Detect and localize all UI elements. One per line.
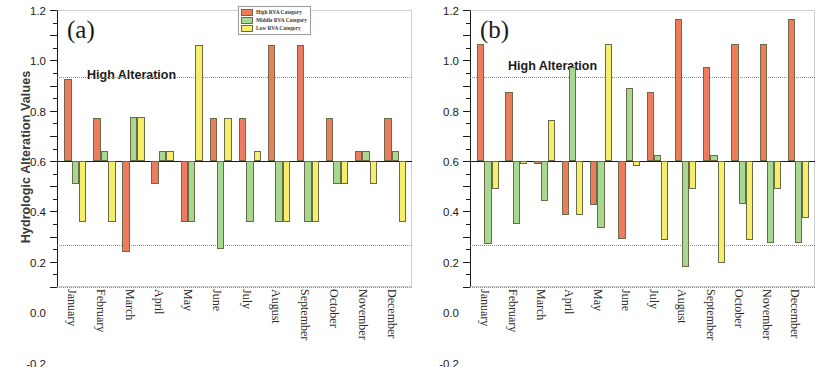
bar xyxy=(72,161,79,184)
bar-group xyxy=(615,10,643,287)
bar-group xyxy=(236,10,265,287)
bar xyxy=(477,44,484,161)
bar xyxy=(710,155,717,161)
y-tick: 0.2 xyxy=(50,136,57,137)
bar xyxy=(484,161,491,244)
y-tick: -1.0 xyxy=(50,287,57,288)
y-tick-label: 1.2 xyxy=(30,5,46,17)
bar-group xyxy=(672,10,700,287)
x-axis-label: May xyxy=(180,289,195,311)
y-tick: -0.2 xyxy=(50,186,57,187)
bar xyxy=(590,161,597,205)
bar-group xyxy=(728,10,756,287)
bar xyxy=(297,45,304,161)
bar xyxy=(795,161,802,243)
bar xyxy=(188,161,195,221)
y-tick-label: 0.4 xyxy=(443,206,459,218)
x-axis-label: July xyxy=(239,289,254,309)
bar xyxy=(492,161,499,189)
bar xyxy=(151,161,158,184)
bar xyxy=(122,161,129,252)
bar xyxy=(576,161,583,215)
bar xyxy=(703,67,710,161)
y-tick: -0.2 xyxy=(463,186,470,187)
bar xyxy=(774,161,781,189)
bar xyxy=(166,151,173,161)
legend-swatch-high-icon xyxy=(241,9,253,16)
y-tick: 1.2 xyxy=(50,10,57,11)
bar xyxy=(239,118,246,161)
bar xyxy=(326,118,333,161)
bar-group xyxy=(323,10,352,287)
bar-group xyxy=(381,10,410,287)
bar xyxy=(802,161,809,218)
y-tick: -0.6 xyxy=(50,237,57,238)
y-tick: -0.8 xyxy=(463,262,470,263)
bar xyxy=(562,161,569,215)
y-tick: -1.0 xyxy=(463,287,470,288)
bars-a xyxy=(57,10,412,287)
bar xyxy=(534,161,541,164)
y-tick: 0.0 xyxy=(463,161,470,162)
y-tick: 0.6 xyxy=(463,86,470,87)
y-tick: 0.8 xyxy=(463,60,470,61)
legend-swatch-low-icon xyxy=(241,25,253,32)
bar-group xyxy=(61,10,90,287)
bar-group xyxy=(587,10,615,287)
figure-root: Hydrologic Alteration Values (a) High Al… xyxy=(0,0,820,367)
bar xyxy=(333,161,340,184)
bar-group xyxy=(559,10,587,287)
bar-group xyxy=(206,10,235,287)
x-axis-label: January xyxy=(64,289,79,326)
bar-group xyxy=(757,10,785,287)
bar-group xyxy=(119,10,148,287)
bar xyxy=(137,117,144,161)
bar xyxy=(159,151,166,161)
x-axis-label: May xyxy=(590,289,605,311)
bar xyxy=(605,44,612,161)
threshold-line xyxy=(470,287,815,288)
x-axis-label: April xyxy=(151,289,166,314)
bar xyxy=(731,44,738,161)
y-tick: 0.4 xyxy=(463,111,470,112)
bar xyxy=(661,161,668,240)
x-axis-label: January xyxy=(477,289,492,326)
bar-group xyxy=(265,10,294,287)
bar xyxy=(739,161,746,204)
bar xyxy=(108,161,115,221)
legend-label-high: High RVA Category xyxy=(256,9,302,16)
x-axis-label: July xyxy=(646,289,661,309)
x-axis-label: November xyxy=(355,289,370,340)
bar xyxy=(312,161,319,221)
y-tick: 0.2 xyxy=(463,136,470,137)
bars-b xyxy=(470,10,815,287)
y-tick-label: 1.0 xyxy=(443,55,459,67)
y-tick-label: 1.2 xyxy=(443,5,459,17)
y-tick: -0.4 xyxy=(463,211,470,212)
y-tick-label: 0.6 xyxy=(30,156,46,168)
bar xyxy=(217,161,224,249)
x-axis-label: December xyxy=(384,289,399,338)
bar xyxy=(341,161,348,184)
y-tick-label: 0.2 xyxy=(443,257,459,269)
bar xyxy=(675,19,682,161)
x-axis-label: June xyxy=(618,289,633,311)
bar xyxy=(181,161,188,221)
y-tick-label: 0.0 xyxy=(443,307,459,319)
bar-group xyxy=(644,10,672,287)
bar-group xyxy=(90,10,119,287)
bar xyxy=(304,161,311,221)
bar xyxy=(195,45,202,161)
bar-group xyxy=(502,10,530,287)
bar xyxy=(746,161,753,240)
bar xyxy=(788,19,795,161)
x-axis-label: August xyxy=(268,289,283,324)
bar xyxy=(513,161,520,224)
bar xyxy=(275,161,282,221)
x-axis-label: September xyxy=(297,289,312,340)
y-tick-label: 0.6 xyxy=(443,156,459,168)
bar-group xyxy=(531,10,559,287)
bar xyxy=(618,161,625,239)
legend: High RVA Category Middle RVA Category Lo… xyxy=(238,6,311,35)
panel-a: (a) High Alteration 1.21.00.80.60.40.20.… xyxy=(57,10,412,287)
